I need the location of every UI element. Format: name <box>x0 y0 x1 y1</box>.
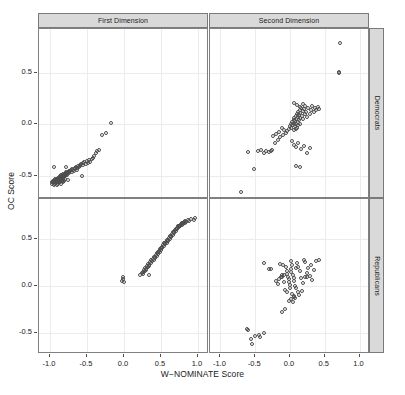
data-point <box>305 151 309 155</box>
y-tick-mark <box>34 238 37 239</box>
data-point <box>141 272 145 276</box>
x-tick-label: 1.0 <box>347 359 371 368</box>
x-tick-label: 0.0 <box>277 359 301 368</box>
gridline-horizontal <box>210 176 368 177</box>
data-point <box>246 328 250 332</box>
y-tick-mark <box>34 72 37 73</box>
data-point <box>147 264 151 268</box>
data-point <box>305 275 309 279</box>
x-tick-label: 0.5 <box>312 359 336 368</box>
gridline-vertical <box>220 199 221 352</box>
data-point <box>258 335 262 339</box>
x-tick-label: 1.0 <box>185 359 209 368</box>
gridline-vertical <box>161 29 162 197</box>
data-point <box>280 310 284 314</box>
data-point <box>280 126 284 130</box>
data-point <box>122 280 126 284</box>
strip-label-first-dimension: First Dimension <box>98 17 148 24</box>
panel-republicans-first-dimension <box>38 198 208 353</box>
y-tick-mark <box>34 175 37 176</box>
gridline-vertical <box>124 29 125 197</box>
data-point <box>282 280 286 284</box>
data-point <box>298 165 302 169</box>
data-point <box>193 216 197 220</box>
data-point <box>246 150 250 154</box>
gridline-vertical <box>290 29 291 197</box>
data-point <box>97 148 101 152</box>
gridline-horizontal <box>210 239 368 240</box>
y-tick-label: 0.0 <box>10 280 32 289</box>
strip-label-republicans: Republicans <box>373 256 380 296</box>
data-point <box>147 273 151 277</box>
data-point <box>250 342 254 346</box>
gridline-vertical <box>87 29 88 197</box>
gridline-horizontal <box>39 124 207 125</box>
data-point <box>301 102 305 106</box>
data-point <box>249 337 253 341</box>
x-tick-mark <box>197 354 198 357</box>
data-point <box>276 282 280 286</box>
data-point <box>174 227 178 231</box>
gridline-vertical <box>87 199 88 352</box>
x-tick-mark <box>219 354 220 357</box>
gridline-horizontal <box>39 73 207 74</box>
data-point <box>168 234 172 238</box>
data-point <box>317 107 321 111</box>
x-tick-label: -0.5 <box>74 359 98 368</box>
data-point <box>252 167 256 171</box>
y-tick-label: 0.5 <box>10 67 32 76</box>
gridline-horizontal <box>39 286 207 287</box>
data-point <box>80 174 84 178</box>
data-point <box>285 290 289 294</box>
data-point <box>298 122 302 126</box>
gridline-horizontal <box>39 333 207 334</box>
data-point <box>291 300 295 304</box>
gridline-vertical <box>325 199 326 352</box>
data-point <box>156 250 160 254</box>
gridline-vertical <box>50 199 51 352</box>
gridline-vertical <box>325 29 326 197</box>
gridline-vertical <box>255 199 256 352</box>
data-point <box>337 71 341 75</box>
data-point <box>317 258 321 262</box>
x-tick-mark <box>324 354 325 357</box>
gridline-vertical <box>360 29 361 197</box>
panel-republicans-second-dimension <box>209 198 369 353</box>
data-point <box>312 268 316 272</box>
x-tick-label: -1.0 <box>37 359 61 368</box>
data-point <box>303 260 307 264</box>
data-point <box>273 141 277 145</box>
data-point <box>283 307 287 311</box>
gridline-vertical <box>255 29 256 197</box>
data-point <box>300 289 304 293</box>
data-point <box>66 178 70 182</box>
data-point <box>309 263 313 267</box>
y-tick-label: -0.5 <box>10 170 32 179</box>
data-point <box>262 331 266 335</box>
data-point <box>310 278 314 282</box>
y-tick-mark <box>34 285 37 286</box>
data-point <box>256 149 260 153</box>
data-point <box>292 279 296 283</box>
data-point <box>262 151 266 155</box>
data-point <box>150 259 154 263</box>
data-point <box>280 273 284 277</box>
data-point <box>308 112 312 116</box>
data-point <box>296 141 300 145</box>
strip-header-republicans: Republicans <box>369 198 384 353</box>
x-tick-label: -0.5 <box>242 359 266 368</box>
data-point <box>239 190 243 194</box>
data-point <box>294 164 298 168</box>
x-tick-label: -1.0 <box>207 359 231 368</box>
scatterplot-matrix: OC Score W−NOMINATE Score First Dimensio… <box>0 0 405 395</box>
data-point <box>301 281 305 285</box>
gridline-horizontal <box>39 239 207 240</box>
gridline-horizontal <box>210 333 368 334</box>
x-tick-mark <box>123 354 124 357</box>
y-tick-label: 0.5 <box>10 233 32 242</box>
data-point <box>262 261 266 265</box>
x-tick-mark <box>160 354 161 357</box>
data-point <box>180 221 184 225</box>
data-point <box>144 268 148 272</box>
strip-label-democrats: Democrats <box>373 96 380 131</box>
